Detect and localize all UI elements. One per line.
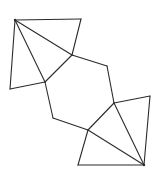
edge-G-H [114, 96, 150, 103]
edge-B-C [72, 19, 81, 55]
vertex-I [143, 164, 145, 166]
diagram-edges [10, 19, 150, 165]
edge-J-L [78, 130, 88, 165]
edge-H-I [144, 96, 150, 165]
edge-F-G [107, 66, 114, 103]
vertex-A [14, 19, 16, 21]
edge-A-B [15, 19, 81, 20]
edge-K-J [53, 118, 88, 130]
edge-C-D [45, 55, 72, 82]
edge-D-K [45, 82, 53, 118]
diagram-vertex-marks [14, 19, 145, 166]
edge-E-D [10, 82, 45, 89]
edge-A-E [10, 20, 15, 89]
edge-J-G [88, 103, 114, 130]
edge-C-F [72, 55, 107, 66]
geometric-net-diagram [0, 0, 153, 176]
